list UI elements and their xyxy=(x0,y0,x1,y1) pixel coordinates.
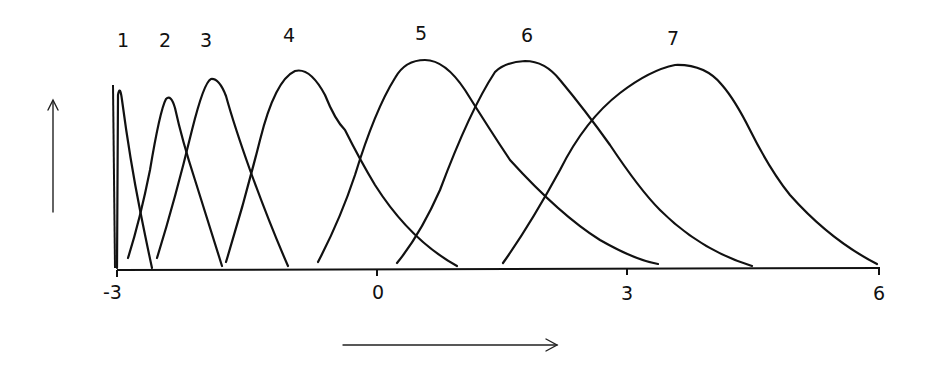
curve-5 xyxy=(318,60,658,264)
x-axis xyxy=(117,268,880,277)
curve-label-6: 6 xyxy=(521,24,533,46)
curve-label-1: 1 xyxy=(117,29,129,51)
curve-6 xyxy=(397,61,752,266)
x-direction-arrow-icon xyxy=(343,339,557,351)
curve-label-7: 7 xyxy=(667,27,679,49)
x-tick-label: 0 xyxy=(372,281,384,303)
curve-label-5: 5 xyxy=(415,22,427,44)
y-axis xyxy=(113,85,115,268)
curve-label-2: 2 xyxy=(159,29,171,51)
curve-label-4: 4 xyxy=(283,24,295,46)
curve-label-3: 3 xyxy=(200,29,212,51)
x-tick-label: -3 xyxy=(103,281,122,303)
x-tick-label: 6 xyxy=(873,282,885,304)
x-tick-label: 3 xyxy=(621,282,633,304)
curve-4 xyxy=(226,71,457,267)
curve-1 xyxy=(117,91,152,268)
chart: -3 0 3 6 1 2 3 4 5 6 7 xyxy=(0,0,935,374)
curve-3 xyxy=(157,79,288,266)
curve-2 xyxy=(128,98,222,266)
y-direction-arrow-icon xyxy=(48,100,58,212)
